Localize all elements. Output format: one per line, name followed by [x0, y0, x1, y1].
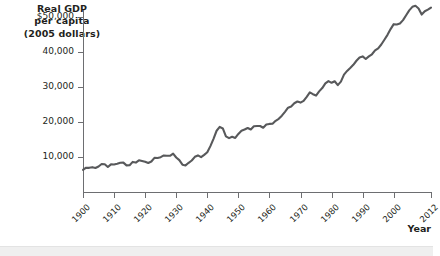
gdp-line	[83, 6, 431, 170]
footer-band	[0, 246, 433, 256]
x-axis-title: Year	[407, 223, 431, 234]
